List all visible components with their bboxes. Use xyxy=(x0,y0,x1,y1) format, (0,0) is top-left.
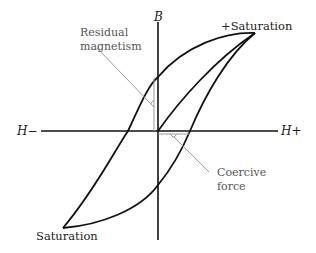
coercive-force-label-line2: force xyxy=(217,180,246,193)
h-positive-label: H+ xyxy=(281,125,302,138)
residual-leader-line xyxy=(97,48,151,104)
residual-magnetism-label-line2: magnetism xyxy=(80,40,142,53)
coercive-force-label-line1: Coercive xyxy=(217,166,266,179)
positive-saturation-label: +Saturation xyxy=(221,20,292,33)
residual-magnetism-label-line1: Residual xyxy=(80,26,128,39)
h-negative-label: H− xyxy=(17,125,38,138)
negative-saturation-label: Saturation xyxy=(36,230,98,243)
b-axis-label: B xyxy=(154,11,163,24)
hysteresis-diagram xyxy=(0,0,316,253)
